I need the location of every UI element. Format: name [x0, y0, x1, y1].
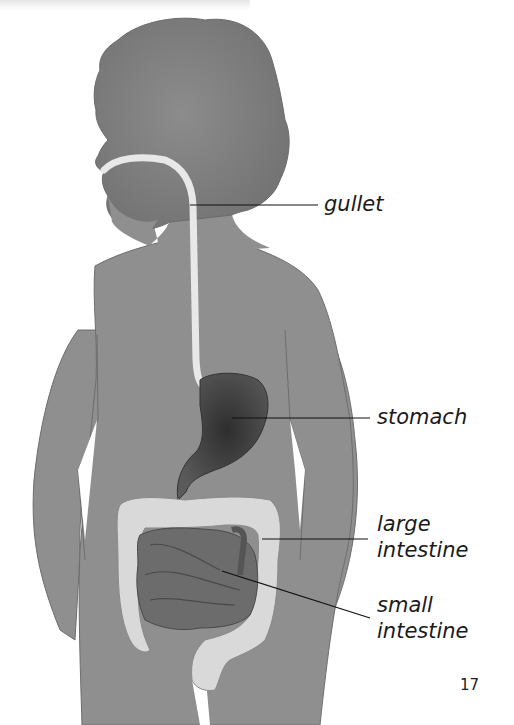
small-intestine-label-line2: intestine: [377, 618, 469, 644]
large-intestine-label-line2: intestine: [377, 537, 469, 563]
digestive-system-diagram: [0, 0, 514, 725]
small-intestine-shape: [137, 528, 258, 630]
page-number: 17: [460, 676, 479, 694]
large-intestine-label-line1: large: [377, 511, 431, 537]
gullet-label: gullet: [324, 191, 383, 217]
stomach-label: stomach: [377, 404, 467, 430]
small-intestine-label-line1: small: [377, 592, 433, 618]
